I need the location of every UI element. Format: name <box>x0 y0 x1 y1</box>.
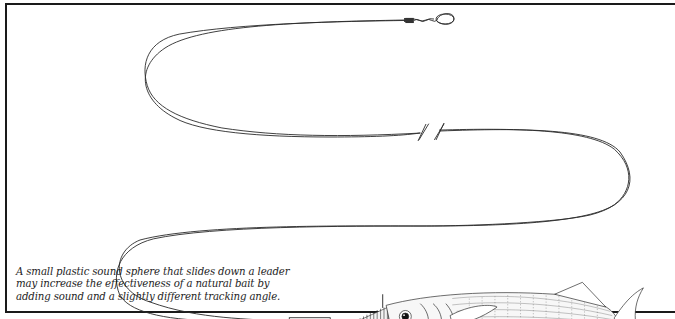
leader-eye-loop <box>405 14 454 25</box>
figure-caption: A small plastic sound sphere that slides… <box>16 266 286 303</box>
caption-line-1: A small plastic sound sphere that slides… <box>16 266 286 278</box>
leader-upper-run <box>145 20 420 135</box>
wire-wrap <box>330 294 389 319</box>
caption-line-3: adding sound and a slightly different tr… <box>16 291 286 303</box>
baitfish <box>386 282 651 319</box>
break-marks <box>419 124 444 140</box>
caption-line-2: may increase the effectiveness of a natu… <box>16 278 286 290</box>
